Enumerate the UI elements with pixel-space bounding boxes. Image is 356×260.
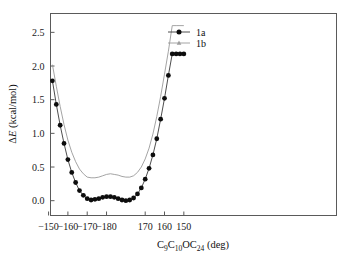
y-tick-label: 1.5 xyxy=(32,94,45,105)
legend-label-1a: 1a xyxy=(196,27,206,38)
data-point-1a xyxy=(77,188,82,193)
data-point-1a xyxy=(147,166,152,171)
x-tick-label: −150 xyxy=(38,221,59,232)
legend-marker-1a xyxy=(177,30,182,35)
x-tick-label: −160 xyxy=(58,221,79,232)
data-point-1a xyxy=(50,78,55,83)
x-tick-label: 160 xyxy=(157,221,172,232)
data-point-1a xyxy=(135,192,140,197)
y-tick-label: 2.5 xyxy=(32,27,45,38)
data-point-1a xyxy=(143,177,148,182)
x-tick-label: 170 xyxy=(138,221,153,232)
legend-label-1b: 1b xyxy=(196,38,206,49)
energy-scan-figure: −150−160−170−180170160150 0.00.51.01.52.… xyxy=(0,0,356,260)
data-point-1a xyxy=(62,141,67,146)
y-tick-label: 1.0 xyxy=(32,128,45,139)
data-point-1a xyxy=(181,52,186,57)
data-point-1a xyxy=(65,157,70,162)
data-point-1a xyxy=(58,123,63,128)
data-point-1a xyxy=(131,196,136,201)
x-tick-label: −170 xyxy=(77,221,98,232)
y-axis-title: ΔE (kcal/mol) xyxy=(7,84,19,144)
x-tick-label: −180 xyxy=(96,221,117,232)
data-point-1a xyxy=(69,170,74,175)
y-tick-label: 2.0 xyxy=(32,61,45,72)
x-tick-label: 150 xyxy=(176,221,191,232)
x-axis-tick-labels: −150−160−170−180170160150 xyxy=(38,221,191,232)
data-point-1a xyxy=(154,136,159,141)
y-axis-title-text: ΔE (kcal/mol) xyxy=(7,84,19,144)
y-tick-label: 0.0 xyxy=(32,195,45,206)
data-point-1a xyxy=(162,96,167,101)
data-point-1a xyxy=(81,193,86,198)
data-point-1a xyxy=(139,185,144,190)
data-point-1a xyxy=(166,73,171,78)
data-point-1a xyxy=(151,153,156,158)
data-point-1a xyxy=(54,102,59,107)
chart-canvas: −150−160−170−180170160150 0.00.51.01.52.… xyxy=(0,0,356,260)
data-point-1a xyxy=(158,117,163,122)
data-point-1a xyxy=(73,180,78,185)
y-tick-label: 0.5 xyxy=(32,162,45,173)
